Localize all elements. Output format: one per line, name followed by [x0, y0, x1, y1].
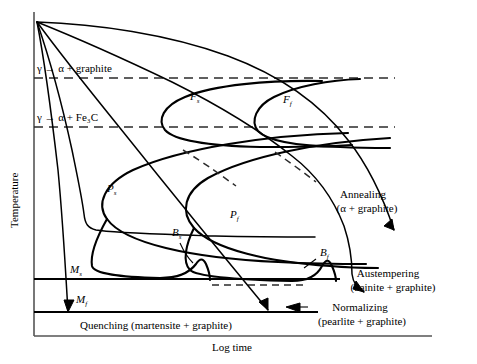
austempering-label-line2: (bainite + graphite) [350, 281, 435, 294]
x-axis-label: Log time [212, 341, 252, 353]
austempering-label-line1: Austempering [357, 267, 420, 279]
bf-label: Bf [320, 246, 330, 261]
quenching-label: Quenching (martensite + graphite) [80, 319, 232, 332]
plot-area: Temperature Log time γ → α + graphite γ … [0, 0, 477, 364]
annealing-label-line2: (α + graphite) [337, 202, 398, 215]
normalizing-leader-group [286, 303, 308, 312]
gamma-alpha-fe3c-label: γ → α + Fe₃C [36, 111, 98, 123]
annealing-arrowhead [384, 219, 394, 230]
ms-label: Ms [69, 263, 82, 278]
ff-dashed-tie [275, 152, 316, 182]
quenching-arrowhead [64, 300, 74, 312]
annealing-label-line1: Annealing [340, 188, 386, 200]
pf-label: Pf [229, 208, 240, 223]
ps-label: Ps [106, 182, 117, 197]
normalizing-label-line2: (pearlite + graphite) [318, 315, 406, 328]
normalizing-label-line1: Normalizing [332, 301, 388, 313]
normalizing-leader-arrowhead [286, 303, 300, 312]
ff-label: Ff [282, 93, 293, 108]
cct-diagram-figure: Temperature Log time γ → α + graphite γ … [0, 0, 477, 364]
ps-curve [102, 133, 366, 264]
y-axis-label: Temperature [8, 172, 20, 228]
text-labels-group: Temperature Log time γ → α + graphite γ … [8, 62, 436, 353]
second-quench-cooling-curve [37, 22, 315, 237]
bs-label: Bs [172, 226, 182, 241]
mf-label: Mf [75, 293, 88, 308]
transformation-curves-group [92, 79, 390, 281]
gamma-alpha-graphite-label: γ → α + graphite [36, 62, 112, 74]
